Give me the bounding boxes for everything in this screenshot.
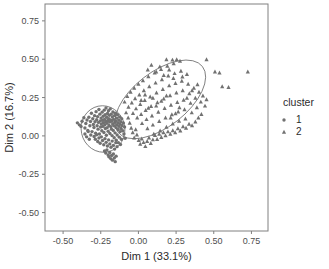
data-point-triangle (177, 105, 181, 109)
x-tick-label: 0.50 (205, 236, 223, 246)
data-point-circle (85, 135, 88, 138)
data-point-triangle (196, 116, 200, 120)
data-point-triangle (146, 67, 150, 71)
data-point-circle (87, 115, 90, 118)
cluster-ellipses-layer (77, 45, 219, 156)
data-point-triangle (143, 93, 147, 97)
data-point-triangle (169, 116, 173, 120)
data-point-triangle (124, 110, 128, 114)
y-tick-label: -0.50 (18, 208, 39, 218)
legend-entry[interactable]: 1 (282, 114, 302, 125)
data-point-triangle (139, 112, 143, 116)
data-point-triangle (154, 90, 158, 94)
data-point-circle (93, 114, 96, 117)
data-point-triangle (186, 82, 190, 86)
x-tick-label: 0.75 (243, 236, 261, 246)
data-point-triangle (204, 97, 208, 101)
data-point-triangle (175, 100, 179, 104)
data-point-circle (89, 120, 92, 123)
data-point-circle (114, 160, 117, 163)
data-point-circle (121, 129, 124, 132)
data-point-triangle (172, 71, 176, 75)
data-point-circle (90, 130, 93, 133)
y-axis-title: Dim 2 (16.7%) (3, 82, 15, 152)
data-point-circle (95, 133, 98, 136)
data-point-triangle (182, 98, 186, 102)
data-point-circle (98, 142, 101, 145)
data-point-triangle (142, 88, 146, 92)
y-tick-label: -0.25 (18, 169, 39, 179)
legend-entry[interactable]: 2 (282, 126, 302, 137)
y-tick-label: 0.75 (21, 16, 39, 26)
data-point-triangle (166, 129, 170, 133)
data-point-triangle (170, 112, 174, 116)
data-point-triangle (195, 105, 199, 109)
data-point-triangle (149, 104, 153, 108)
data-point-triangle (167, 67, 171, 71)
data-point-triangle (199, 100, 203, 104)
data-point-triangle (171, 76, 175, 80)
data-point-triangle (173, 81, 177, 85)
data-point-triangle (217, 71, 221, 75)
data-point-triangle (126, 116, 130, 120)
data-point-triangle (174, 90, 178, 94)
data-point-triangle (180, 75, 184, 79)
data-point-circle (114, 154, 117, 157)
data-point-circle (102, 131, 105, 134)
data-point-triangle (133, 96, 137, 100)
data-point-circle (94, 110, 97, 113)
data-point-triangle (188, 101, 192, 105)
data-point-triangle (160, 77, 164, 81)
legend-title: cluster (283, 96, 314, 108)
data-point-triangle (139, 98, 143, 102)
data-point-triangle (183, 117, 187, 121)
data-point-circle (90, 112, 93, 115)
data-point-circle (92, 126, 95, 129)
data-point-triangle (171, 128, 175, 132)
data-point-circle (282, 118, 285, 121)
x-tick-label: -0.25 (90, 236, 111, 246)
data-point-triangle (141, 140, 145, 144)
data-point-triangle (129, 126, 133, 130)
data-point-circle (91, 117, 94, 120)
data-point-triangle (130, 101, 134, 105)
data-point-triangle (164, 94, 168, 98)
data-point-triangle (143, 144, 147, 148)
data-point-triangle (169, 103, 173, 107)
data-point-triangle (144, 117, 148, 121)
data-point-triangle (161, 87, 165, 91)
data-point-circle (88, 124, 91, 127)
data-point-circle (95, 124, 98, 127)
data-point-triangle (143, 98, 147, 102)
data-point-triangle (167, 83, 171, 87)
legend-entry-label: 2 (296, 126, 302, 137)
data-point-circle (103, 137, 106, 140)
data-point-triangle (126, 105, 130, 109)
data-point-triangle (176, 126, 180, 130)
data-point-triangle (176, 109, 180, 113)
data-point-circle (104, 106, 107, 109)
data-point-circle (97, 108, 100, 111)
data-points-layer (76, 57, 250, 163)
data-point-triangle (149, 141, 153, 145)
data-point-triangle (149, 63, 153, 67)
data-point-circle (104, 141, 107, 144)
data-point-triangle (134, 106, 138, 110)
data-point-triangle (197, 90, 201, 94)
data-point-triangle (204, 57, 208, 61)
y-tick-label: 0.25 (21, 93, 39, 103)
legend-entry-label: 1 (296, 114, 302, 125)
data-point-circle (102, 143, 105, 146)
data-point-triangle (135, 116, 139, 120)
panel-border (45, 4, 268, 231)
data-point-triangle (145, 139, 149, 143)
x-tick-label: 0.00 (130, 236, 148, 246)
data-point-triangle (168, 93, 172, 97)
plot-svg: -0.50-0.250.000.250.500.75 -0.50-0.250.0… (0, 0, 329, 269)
data-point-circle (87, 130, 90, 133)
y-tick-label: 0.00 (21, 131, 39, 141)
data-point-triangle (193, 96, 197, 100)
data-point-circle (112, 152, 115, 155)
data-point-circle (112, 144, 115, 147)
data-point-triangle (213, 70, 217, 74)
